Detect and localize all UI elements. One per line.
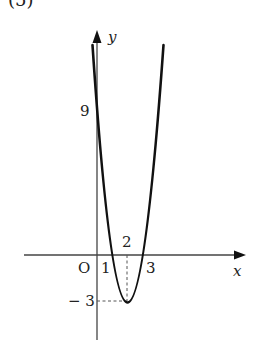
x-tick-1: 1 bbox=[101, 259, 111, 277]
y-tick-9: 9 bbox=[80, 102, 90, 120]
y-tick-neg3: − 3 bbox=[68, 292, 95, 310]
y-axis-arrow-icon bbox=[93, 30, 102, 43]
problem-number: (5) bbox=[8, 0, 34, 10]
origin-label: O bbox=[78, 259, 90, 277]
parabola-graph: (5) x y 9 2 O 1 3 − 3 bbox=[0, 0, 266, 355]
x-tick-2: 2 bbox=[122, 233, 132, 251]
x-axis-arrow-icon bbox=[234, 251, 246, 260]
y-axis-label: y bbox=[107, 28, 117, 46]
x-axis-label: x bbox=[233, 262, 242, 280]
x-tick-3: 3 bbox=[146, 259, 156, 277]
